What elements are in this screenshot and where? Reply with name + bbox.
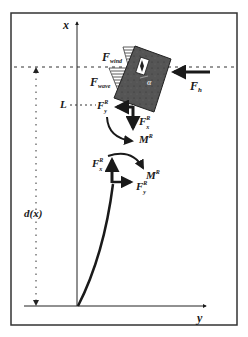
depth-arrow-top [33,67,39,73]
top-force-x-label: FRx [138,115,150,130]
riser-curve [78,184,113,306]
x-axis-label: x [62,18,69,32]
free-body-diagram: x y d(x) L α Fh Fwi [0,0,248,337]
bottom-force-x-label: FRx [91,157,103,172]
top-force-y-label: FRy [96,99,108,114]
figure-frame [11,13,237,325]
length-marker-label: L [59,98,67,110]
top-moment-arrow [107,117,132,141]
wind-force-label: Fwind [101,50,123,64]
vessel-body [114,46,171,112]
wave-force-label: Fwave [89,75,111,89]
hawser-force-label: Fh [189,79,202,94]
depth-arrow-bottom [33,300,39,306]
angle-label: α [147,78,152,87]
y-axis-label: y [195,311,203,325]
depth-label: d(x) [24,207,42,220]
top-moment-label: MR [138,133,153,145]
bottom-force-y-label: FRy [135,180,147,195]
